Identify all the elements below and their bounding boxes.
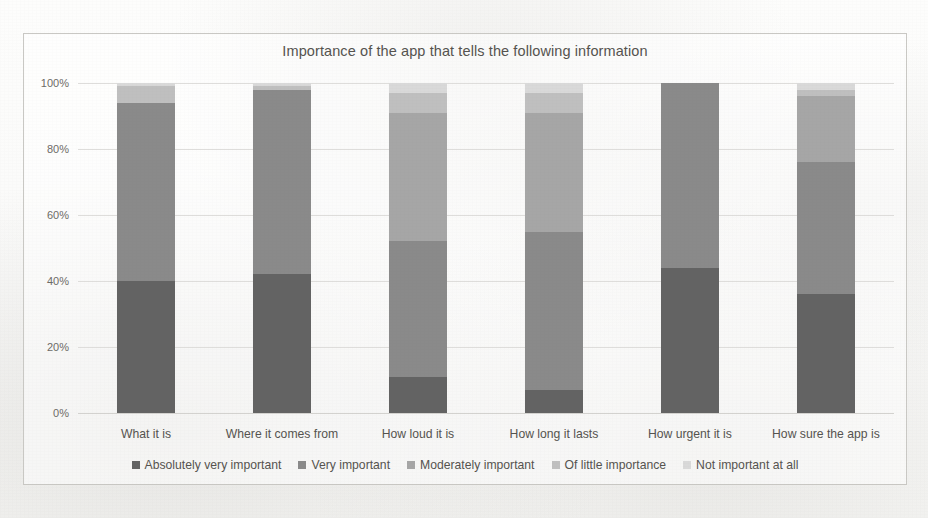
bar-segment[interactable] xyxy=(389,93,447,113)
y-tick-label: 100% xyxy=(41,77,69,89)
bar-segment[interactable] xyxy=(525,83,583,93)
gridline-0 xyxy=(78,413,894,414)
legend-label: Not important at all xyxy=(696,458,798,472)
bar-segment[interactable] xyxy=(525,93,583,113)
x-tick-label: Where it comes from xyxy=(214,427,350,441)
bar-segment[interactable] xyxy=(389,241,447,376)
bar-segment[interactable] xyxy=(253,274,311,413)
y-tick-label: 60% xyxy=(47,209,69,221)
page-background: Importance of the app that tells the fol… xyxy=(0,0,928,518)
bar-slot xyxy=(758,83,893,413)
x-tick-label: What it is xyxy=(78,427,214,441)
bar-segment[interactable] xyxy=(797,90,855,97)
legend-item[interactable]: Very important xyxy=(298,458,390,472)
chart-frame: Importance of the app that tells the fol… xyxy=(23,33,907,485)
x-tick-label: How long it lasts xyxy=(486,427,622,441)
y-tick-label: 20% xyxy=(47,341,69,353)
bar-segment[interactable] xyxy=(661,83,719,268)
bar-segment[interactable] xyxy=(797,294,855,413)
plot-area: 0%20%40%60%80%100% xyxy=(78,83,894,413)
bar-segment[interactable] xyxy=(253,90,311,275)
stacked-bar[interactable] xyxy=(525,83,583,413)
bar-slot xyxy=(78,83,213,413)
bar-slot xyxy=(350,83,485,413)
x-tick-label: How sure the app is xyxy=(758,427,894,441)
y-tick-label: 0% xyxy=(53,407,69,419)
bar-segment[interactable] xyxy=(525,390,583,413)
stacked-bar[interactable] xyxy=(117,83,175,413)
bar-segment[interactable] xyxy=(117,103,175,281)
bar-segment[interactable] xyxy=(389,113,447,242)
chart-legend: Absolutely very importantVery importantM… xyxy=(24,458,906,472)
legend-item[interactable]: Moderately important xyxy=(407,458,534,472)
bar-slot xyxy=(214,83,349,413)
chart-title: Importance of the app that tells the fol… xyxy=(24,43,906,59)
legend-label: Moderately important xyxy=(420,458,534,472)
bar-segment[interactable] xyxy=(525,113,583,232)
legend-swatch-icon xyxy=(298,461,306,469)
bar-segment[interactable] xyxy=(117,281,175,413)
legend-item[interactable]: Not important at all xyxy=(683,458,798,472)
bar-segment[interactable] xyxy=(661,268,719,413)
bar-segment[interactable] xyxy=(797,162,855,294)
stacked-bar[interactable] xyxy=(661,83,719,413)
x-tick-label: How urgent it is xyxy=(622,427,758,441)
stacked-bar[interactable] xyxy=(389,83,447,413)
stacked-bar[interactable] xyxy=(797,83,855,413)
x-tick-label: How loud it is xyxy=(350,427,486,441)
legend-label: Absolutely very important xyxy=(145,458,282,472)
bar-segment[interactable] xyxy=(797,83,855,90)
bar-slot xyxy=(486,83,621,413)
legend-swatch-icon xyxy=(683,461,691,469)
bar-group xyxy=(78,83,894,413)
y-tick-label: 80% xyxy=(47,143,69,155)
bar-segment[interactable] xyxy=(525,232,583,390)
legend-item[interactable]: Of little importance xyxy=(552,458,667,472)
legend-swatch-icon xyxy=(552,461,560,469)
legend-label: Of little importance xyxy=(565,458,667,472)
stacked-bar[interactable] xyxy=(253,83,311,413)
bar-segment[interactable] xyxy=(389,377,447,413)
x-axis-tick-labels: What it isWhere it comes fromHow loud it… xyxy=(78,427,894,441)
bar-slot xyxy=(622,83,757,413)
legend-swatch-icon xyxy=(407,461,415,469)
y-tick-label: 40% xyxy=(47,275,69,287)
bar-segment[interactable] xyxy=(389,83,447,93)
bar-segment[interactable] xyxy=(117,86,175,103)
legend-swatch-icon xyxy=(132,461,140,469)
legend-label: Very important xyxy=(311,458,390,472)
legend-item[interactable]: Absolutely very important xyxy=(132,458,282,472)
bar-segment[interactable] xyxy=(797,96,855,162)
